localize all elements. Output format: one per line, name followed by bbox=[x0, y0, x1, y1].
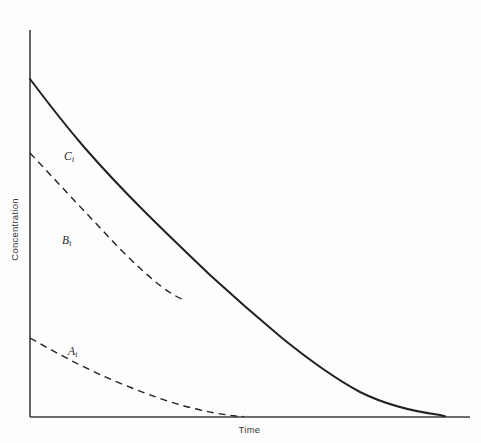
curve-label-c: Ct bbox=[64, 150, 74, 162]
curve-label-b: Bt bbox=[62, 234, 71, 246]
curve-label-c-subscript: t bbox=[72, 155, 74, 164]
x-axis-label: Time bbox=[0, 424, 481, 435]
curve-label-c-base: C bbox=[64, 150, 72, 162]
curve-label-a-subscript: t bbox=[75, 350, 77, 359]
chart-figure: Concentration Time Ct Bt At bbox=[0, 0, 481, 443]
curve-label-a-base: A bbox=[68, 345, 75, 357]
curve-label-b-base: B bbox=[62, 234, 69, 246]
plot-area bbox=[0, 0, 481, 443]
series-line-c-total bbox=[30, 79, 445, 416]
series-line-a-terminal bbox=[30, 338, 244, 417]
curve-label-a: At bbox=[68, 345, 77, 357]
curve-label-b-subscript: t bbox=[69, 239, 71, 248]
